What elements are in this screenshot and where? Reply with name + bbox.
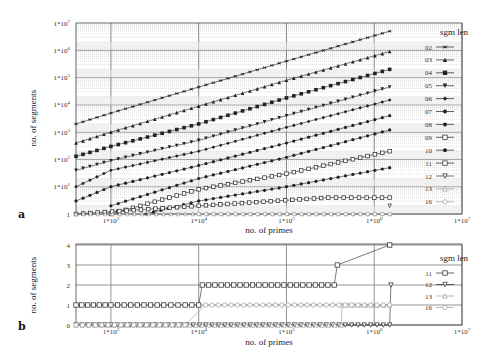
data-point <box>263 212 267 216</box>
data-point <box>322 212 326 216</box>
data-point <box>277 98 281 102</box>
data-point <box>139 178 142 181</box>
legend-label: 07 <box>425 108 433 116</box>
y-tick-label: 2 <box>67 282 71 290</box>
data-point <box>280 303 284 307</box>
data-point <box>138 137 142 141</box>
data-point <box>358 76 362 80</box>
data-point <box>248 303 252 307</box>
data-point <box>285 156 288 159</box>
legend-title: sgm len <box>440 27 469 37</box>
data-point <box>299 92 303 96</box>
data-point <box>443 148 447 152</box>
data-point <box>326 283 330 287</box>
panel-a-y-label: no. of segments <box>28 89 38 146</box>
data-point <box>307 136 310 139</box>
data-point <box>336 161 340 165</box>
data-point <box>255 177 259 181</box>
panel-a-x-ticks: 1*1031*1041*1051*1061*107 <box>103 216 471 225</box>
data-point <box>175 128 179 132</box>
data-point <box>381 116 384 119</box>
data-point <box>146 202 150 206</box>
data-point <box>219 79 223 82</box>
data-point <box>256 149 259 152</box>
data-point <box>151 323 155 327</box>
data-point <box>168 186 171 189</box>
figure: 11*1011*1021*1031*1041*1051*1061*107 1*1… <box>0 0 490 363</box>
data-point <box>314 180 317 183</box>
data-point <box>443 161 447 165</box>
data-point <box>81 153 85 157</box>
data-point <box>124 107 128 110</box>
data-point <box>85 303 89 307</box>
data-point <box>273 303 277 307</box>
data-point <box>124 182 127 185</box>
data-point <box>203 303 207 307</box>
data-point <box>319 283 323 287</box>
data-point <box>362 303 366 307</box>
data-point <box>257 283 261 287</box>
legend-item-13: 13 <box>425 293 454 301</box>
data-point <box>204 186 208 190</box>
data-point <box>212 81 216 84</box>
data-point <box>190 166 193 169</box>
data-point <box>336 176 339 179</box>
panel-a-x-label: no. of primes <box>245 225 293 235</box>
data-point <box>219 212 223 216</box>
data-point <box>226 141 230 145</box>
legend-label: 06 <box>425 95 433 103</box>
data-point <box>81 167 85 171</box>
data-point <box>256 212 260 216</box>
data-point <box>219 172 222 175</box>
x-tick-label: 1*107 <box>454 327 471 336</box>
data-point <box>336 212 340 216</box>
data-point <box>80 323 84 327</box>
data-point <box>324 303 328 307</box>
data-point <box>226 202 230 206</box>
data-point <box>170 323 174 327</box>
data-point <box>263 103 267 107</box>
data-point <box>373 89 377 93</box>
data-point <box>313 283 317 287</box>
data-point <box>351 78 355 82</box>
data-point <box>95 149 99 153</box>
data-point <box>314 134 317 137</box>
data-point <box>204 120 208 124</box>
data-point <box>183 323 187 327</box>
panel-a: 11*1011*1021*1031*1041*1051*1061*107 1*1… <box>18 19 471 236</box>
data-point <box>373 212 377 216</box>
data-point <box>285 78 289 82</box>
panel-a-letter: a <box>18 208 25 221</box>
data-point <box>336 128 339 131</box>
data-point <box>88 137 92 141</box>
data-point <box>233 94 237 98</box>
data-point <box>102 133 106 137</box>
data-point <box>206 283 210 287</box>
data-point <box>344 159 348 163</box>
data-point <box>146 176 149 179</box>
data-point <box>109 168 113 172</box>
data-point <box>388 114 391 117</box>
panel-a-grid <box>76 23 462 214</box>
legend-label: 12 <box>425 281 433 289</box>
data-point <box>212 145 216 149</box>
legend-item-05: 05 <box>425 82 454 90</box>
data-point <box>292 58 296 61</box>
data-point <box>138 122 142 126</box>
data-point <box>219 203 223 207</box>
legend-label: 13 <box>425 185 433 193</box>
data-point <box>299 169 303 173</box>
data-point <box>138 204 142 208</box>
data-point <box>175 184 178 187</box>
data-point <box>138 323 142 327</box>
data-point <box>292 170 296 174</box>
data-point <box>381 151 385 155</box>
data-point <box>131 180 134 183</box>
x-tick-label: 1*105 <box>278 327 295 336</box>
data-point <box>381 87 385 91</box>
data-point <box>283 199 287 203</box>
y-tick-label: 1 <box>67 302 71 310</box>
data-point <box>74 141 78 145</box>
data-point <box>301 283 305 287</box>
data-point <box>103 303 107 307</box>
